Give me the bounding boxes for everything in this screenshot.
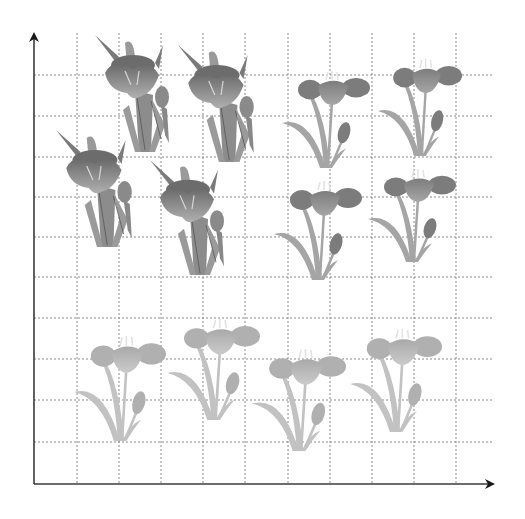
axes <box>34 37 490 484</box>
iris-flower-icon <box>95 35 169 152</box>
light-tulip-flower-icon <box>167 319 260 420</box>
light-tulip-flower-icon <box>350 329 442 432</box>
dark-tulip-flower-icon <box>282 71 370 168</box>
dark-tulip-flower-icon <box>378 59 462 156</box>
flower-set <box>56 35 462 451</box>
flower-grid-figure <box>0 0 525 519</box>
iris-flower-icon <box>56 130 132 247</box>
iris-flower-icon <box>178 45 254 162</box>
dark-tulip-flower-icon <box>274 181 362 280</box>
dark-tulip-flower-icon <box>368 169 456 262</box>
light-tulip-flower-icon <box>74 336 166 441</box>
